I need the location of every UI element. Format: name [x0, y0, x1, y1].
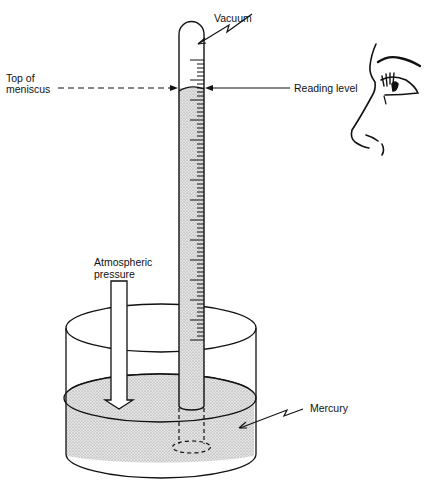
top-of-meniscus-label-line2: meniscus	[6, 83, 50, 95]
mercury-reservoir	[64, 304, 256, 478]
atmospheric-pressure-label-line2: pressure	[94, 268, 135, 280]
meniscus-pointer	[58, 85, 178, 91]
vacuum-label: Vacuum	[214, 12, 252, 24]
mercury-label: Mercury	[310, 402, 348, 414]
reading-level-pointer	[205, 85, 290, 91]
diagram-drawing	[0, 0, 439, 492]
atmospheric-pressure-label-line1: Atmospheric	[94, 256, 152, 268]
observer-eye	[351, 44, 420, 155]
barometer-diagram: Vacuum Top of meniscus Reading level Atm…	[0, 0, 439, 492]
reading-level-label: Reading level	[294, 82, 358, 94]
